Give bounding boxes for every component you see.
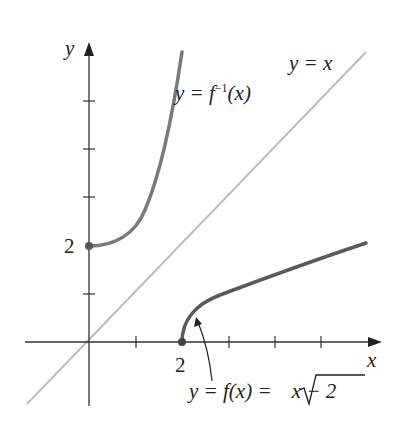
x-axis-label: x — [367, 350, 376, 371]
function-curve — [182, 243, 366, 342]
inverse-start-point — [85, 242, 93, 250]
annotation-arrow-icon — [194, 317, 202, 327]
identity-label: y = x — [289, 53, 332, 74]
x-tick-label-2: 2 — [175, 355, 186, 376]
x-axis-arrow-icon — [368, 337, 382, 347]
function-label: y = f(x) = x − 2 — [189, 381, 336, 402]
y-axis-label: y — [65, 38, 74, 59]
y-tick-label-2: 2 — [64, 236, 75, 257]
annotation-leader — [198, 322, 212, 381]
inverse-curve — [89, 52, 182, 246]
graph-canvas — [0, 0, 395, 437]
y-axis-arrow-icon — [84, 42, 94, 56]
function-start-point — [178, 338, 186, 346]
inverse-label: y = f−1(x) — [175, 82, 251, 104]
